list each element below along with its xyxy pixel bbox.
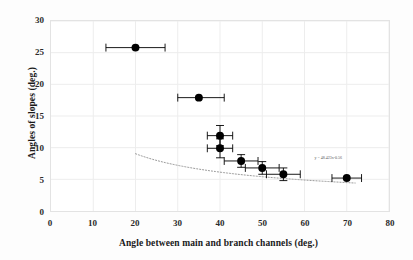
plot-canvas [51, 21, 389, 211]
y-tick-label: 10 [18, 144, 44, 153]
data-point [279, 170, 287, 178]
y-tick-label: 5 [18, 176, 44, 185]
x-tick-label: 40 [208, 219, 232, 228]
data-point [216, 144, 224, 152]
x-axis-title: Angle between main and branch channels (… [46, 238, 391, 248]
y-tick-label: 0 [18, 208, 44, 217]
x-tick-label: 70 [336, 219, 360, 228]
x-tick-label: 50 [251, 219, 275, 228]
trendline-equation-label: y = 48.423x-0.56 [315, 155, 343, 160]
x-tick-label: 0 [38, 219, 62, 228]
error-bars [106, 44, 362, 182]
x-tick-label: 80 [378, 219, 402, 228]
data-point [258, 164, 266, 172]
y-tick-label: 15 [18, 112, 44, 121]
data-point [237, 157, 245, 165]
data-point [216, 132, 224, 140]
y-tick-label: 25 [18, 48, 44, 57]
x-tick-label: 60 [293, 219, 317, 228]
chart-figure: Angles of slopes (deg.) Angle between ma… [0, 0, 413, 260]
data-point [343, 174, 351, 182]
x-tick-label: 10 [81, 219, 105, 228]
plot-area: y = 48.423x-0.56 [50, 20, 390, 212]
data-point [132, 44, 140, 52]
data-point [195, 94, 203, 102]
x-tick-label: 30 [166, 219, 190, 228]
y-tick-label: 30 [18, 16, 44, 25]
x-tick-label: 20 [123, 219, 147, 228]
data-points [132, 44, 351, 182]
y-tick-label: 20 [18, 80, 44, 89]
